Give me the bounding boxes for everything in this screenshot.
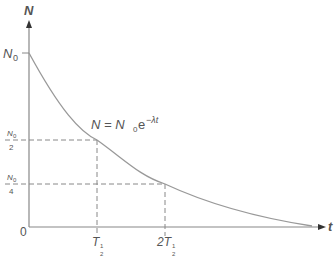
two-t-half-sub-num: 1 — [172, 243, 176, 249]
two-t-half-label: 2T — [156, 235, 173, 249]
half-label-num-sub: 0 — [13, 133, 17, 139]
quarter-label-num-sub: 0 — [13, 177, 17, 183]
n0-label-sub: 0 — [13, 53, 18, 63]
equation-lhs: N = N — [91, 117, 125, 132]
t-half-sub-num: 1 — [100, 243, 104, 249]
equation-base: e — [138, 117, 145, 132]
n0-label: N — [3, 46, 13, 61]
t-half-sub-den: 2 — [100, 251, 104, 257]
decay-chart: N t N 0 N 0 2 N 0 4 0 T 1 2 2T 1 2 N = N… — [0, 0, 336, 260]
origin-label: 0 — [20, 225, 27, 239]
quarter-label-den: 4 — [9, 187, 14, 196]
two-t-half-sub-den: 2 — [172, 251, 176, 257]
equation-exponent: −λt — [146, 115, 159, 125]
x-axis-label: t — [328, 219, 333, 234]
y-axis-label: N — [24, 3, 34, 18]
x-axis-arrow-icon — [318, 224, 326, 230]
half-label-den: 2 — [9, 143, 14, 152]
y-axis-arrow-icon — [26, 20, 32, 28]
